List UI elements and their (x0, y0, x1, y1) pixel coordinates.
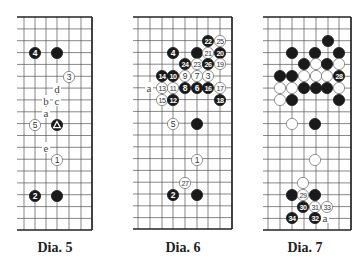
move-number: 27 (181, 179, 189, 188)
move-number: 12 (169, 96, 177, 105)
move-number: 4 (171, 48, 176, 58)
black-stone (333, 94, 344, 105)
point-label-c: c (55, 95, 60, 107)
move-number: 3 (67, 72, 72, 82)
black-stone: 14 (156, 70, 167, 81)
move-number: 10 (169, 72, 177, 81)
white-stone (274, 82, 285, 93)
white-stone: 19 (214, 58, 225, 69)
move-number: 7 (195, 71, 200, 81)
black-stone (286, 189, 297, 200)
white-stone (333, 82, 344, 93)
black-stone (309, 118, 320, 129)
white-stone (310, 58, 321, 69)
black-stone: 2 (167, 189, 178, 200)
black-stone: 34 (286, 212, 297, 223)
move-number: 19 (216, 60, 224, 69)
black-stone (286, 94, 297, 105)
white-stone: 1 (191, 154, 202, 165)
white-stone: 27 (179, 177, 190, 188)
move-number: 17 (216, 84, 224, 93)
black-stone (321, 58, 332, 69)
point-label-b: b (43, 95, 49, 107)
black-stone (321, 82, 332, 93)
move-number: 1 (195, 155, 200, 165)
black-stone: 32 (309, 212, 320, 223)
black-stone: 6 (191, 82, 202, 93)
black-stone (51, 119, 62, 130)
white-stone: 25 (214, 35, 225, 46)
move-number: 9 (183, 71, 188, 81)
move-number: 22 (204, 37, 212, 46)
move-number: 5 (171, 119, 176, 129)
black-stone (309, 189, 320, 200)
move-number: 30 (299, 203, 307, 212)
white-stone (274, 94, 285, 105)
black-stone (191, 189, 202, 200)
white-stone: 13 (156, 82, 167, 93)
move-number: 23 (193, 60, 201, 69)
white-stone: 5 (29, 119, 40, 130)
point-label-d: d (54, 83, 60, 95)
diagram-caption: Dia. 5 (15, 240, 95, 256)
move-number: 8 (183, 83, 188, 93)
black-stone: 22 (202, 35, 213, 46)
point-label-a: a (147, 82, 152, 94)
black-stone (51, 47, 62, 58)
move-number: 15 (158, 96, 166, 105)
move-number: 13 (158, 84, 166, 93)
move-number: 25 (216, 37, 224, 46)
white-stone: 1 (51, 154, 62, 165)
move-number: 18 (216, 96, 224, 105)
move-number: 31 (311, 203, 319, 212)
move-number: 16 (204, 84, 212, 93)
white-stone: 3 (202, 70, 213, 81)
move-number: 6 (195, 83, 200, 93)
move-number: 32 (311, 214, 319, 223)
black-stone (322, 35, 333, 46)
black-stone (286, 70, 297, 81)
white-stone (298, 70, 309, 81)
black-stone: 8 (179, 82, 190, 93)
move-number: 1 (55, 155, 60, 165)
white-stone: 3 (63, 71, 74, 82)
move-number: 2 (33, 191, 38, 201)
move-number: 24 (181, 60, 189, 69)
diagram-caption: Dia. 7 (265, 240, 345, 256)
white-stone: 21 (202, 47, 213, 58)
black-stone: 18 (214, 94, 225, 105)
point-label-e: e (44, 142, 49, 154)
move-number: 34 (288, 214, 296, 223)
black-stone (298, 82, 309, 93)
black-stone: 20 (214, 47, 225, 58)
white-stone: 33 (321, 201, 332, 212)
black-stone (310, 82, 321, 93)
black-stone (298, 58, 309, 69)
move-number: 20 (216, 49, 224, 58)
black-stone (286, 47, 297, 58)
black-stone (191, 47, 202, 58)
white-stone: 11 (167, 82, 178, 93)
move-number: 21 (204, 49, 212, 58)
black-stone: 30 (297, 201, 308, 212)
point-label-a: a (323, 212, 328, 224)
move-number: 4 (33, 48, 38, 58)
move-number: 26 (204, 60, 212, 69)
white-stone: 23 (191, 58, 202, 69)
move-number: 11 (170, 84, 177, 93)
move-number: 2 (171, 190, 176, 200)
white-stone: 29 (297, 189, 308, 200)
move-number: 28 (335, 72, 343, 81)
white-stone (286, 82, 297, 93)
black-stone: 16 (202, 82, 213, 93)
move-number: 29 (299, 191, 307, 200)
diagram-caption: Dia. 6 (143, 240, 223, 256)
white-stone (286, 118, 297, 129)
white-stone (310, 70, 321, 81)
black-stone: 4 (167, 47, 178, 58)
go-diagrams-figure: dbcae43512a22254212024232619141097313118… (0, 0, 361, 261)
black-stone (309, 47, 320, 58)
white-stone (321, 70, 332, 81)
white-stone (297, 177, 308, 188)
black-stone (51, 190, 62, 201)
